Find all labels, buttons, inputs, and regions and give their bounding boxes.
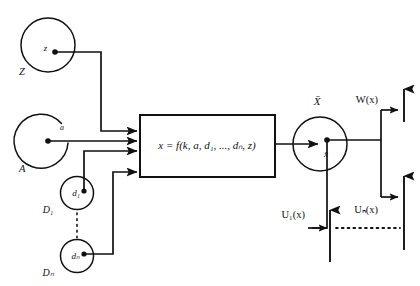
label-set-A: A — [18, 163, 26, 174]
label-set-Dn: Dₙ — [41, 267, 54, 278]
label-function-Un: Uₙ(x) — [354, 204, 378, 216]
input-node-Z — [21, 18, 75, 72]
label-set-Xbar: X̄ — [313, 95, 322, 107]
label-element-a: a — [60, 123, 64, 132]
label-element-dn: dₙ — [72, 251, 81, 261]
label-element-z: z — [43, 43, 48, 53]
label-element-xbar: x̄ — [323, 149, 329, 159]
diagram-svg: z Z a A d₁ D₁ dₙ Dₙ x = f(k, a, d₁, ...,… — [0, 0, 420, 286]
label-set-D1: D₁ — [42, 204, 54, 215]
circle-Z — [21, 18, 75, 72]
label-element-d1: d₁ — [72, 188, 80, 198]
connector-dn-to-box — [84, 172, 137, 254]
label-function-W: W(x) — [356, 94, 379, 106]
process-box-formula: x = f(k, a, d₁, ..., dₙ, z) — [157, 139, 256, 152]
diagram-canvas: z Z a A d₁ D₁ dₙ Dₙ x = f(k, a, d₁, ...,… — [0, 0, 420, 286]
label-function-U1: U₁(x) — [282, 209, 306, 221]
label-set-Z: Z — [19, 66, 25, 77]
